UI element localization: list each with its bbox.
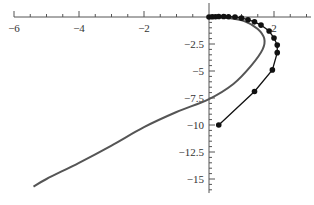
- data-point-marker: [266, 28, 272, 34]
- chart: −6−4−22−2.5−5−7.5−10−12.5−15: [0, 0, 314, 205]
- y-tick-label: −5: [192, 65, 204, 77]
- y-tick-label: −2.5: [184, 38, 204, 50]
- black-markers: [206, 14, 280, 128]
- data-point-marker: [245, 17, 251, 23]
- x-tick-label: −2: [138, 22, 150, 34]
- data-point-marker: [221, 14, 227, 20]
- y-tick-label: −10: [187, 119, 205, 131]
- x-tick-label: −6: [8, 22, 20, 34]
- data-point-marker: [270, 67, 276, 73]
- data-point-marker: [216, 14, 222, 20]
- y-tick-label: −15: [187, 173, 205, 185]
- data-point-marker: [252, 19, 258, 25]
- data-point-marker: [258, 22, 264, 28]
- data-point-marker: [274, 50, 280, 56]
- data-point-marker: [252, 89, 258, 95]
- data-point-marker: [226, 14, 232, 20]
- y-tick-label: −12.5: [179, 146, 205, 158]
- x-tick-label: 2: [271, 22, 277, 34]
- tick-labels: −6−4−22−2.5−5−7.5−10−12.5−15: [8, 22, 277, 185]
- data-point-marker: [216, 122, 222, 128]
- gray-curve: [34, 17, 265, 187]
- data-point-marker: [232, 14, 238, 20]
- data-point-marker: [271, 35, 277, 41]
- data-point-marker: [239, 15, 245, 21]
- x-tick-label: −4: [73, 22, 85, 34]
- data-point-marker: [274, 42, 280, 48]
